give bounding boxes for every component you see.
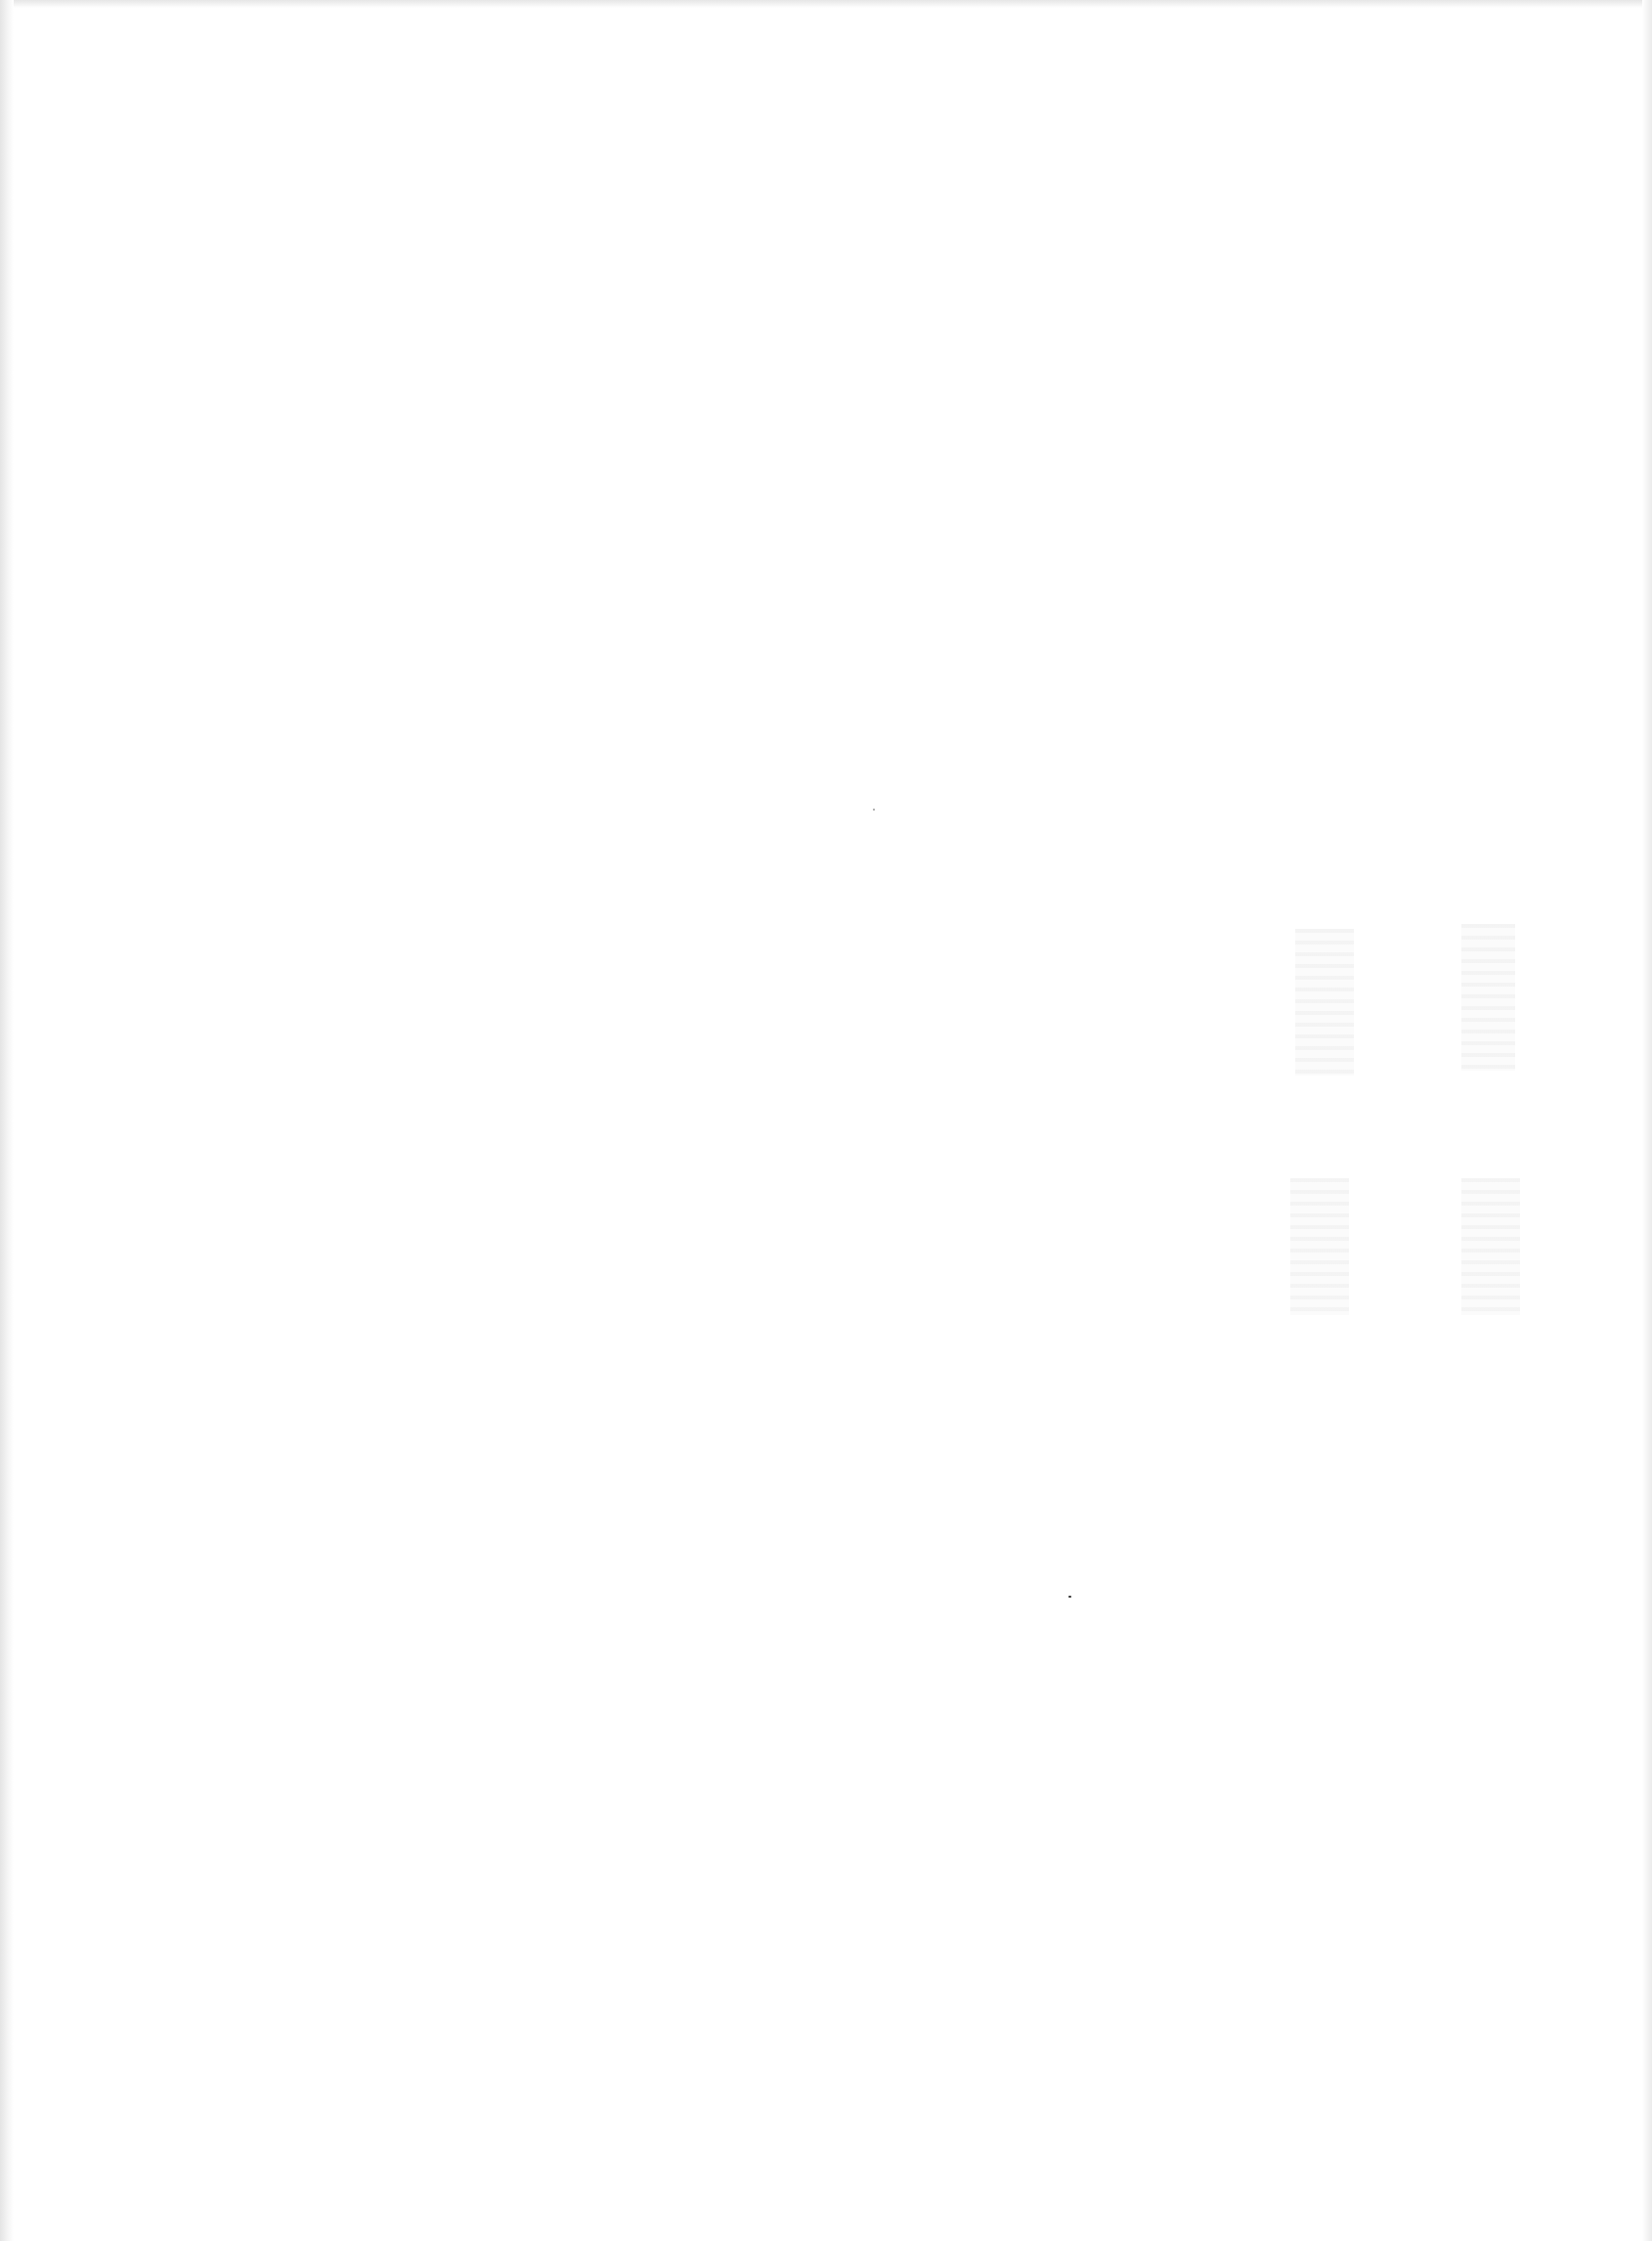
scan-edge-right bbox=[1642, 0, 1652, 2241]
scan-edge-left bbox=[0, 0, 14, 2241]
blank-page bbox=[0, 0, 1652, 2241]
scan-edge-top bbox=[0, 0, 1652, 8]
scan-speck bbox=[873, 809, 875, 811]
bleed-through-mark bbox=[1295, 929, 1354, 1076]
bleed-through-mark bbox=[1461, 1178, 1520, 1315]
bleed-through-mark bbox=[1461, 924, 1515, 1071]
bleed-through-mark bbox=[1290, 1178, 1349, 1315]
scan-speck bbox=[1068, 1596, 1071, 1598]
